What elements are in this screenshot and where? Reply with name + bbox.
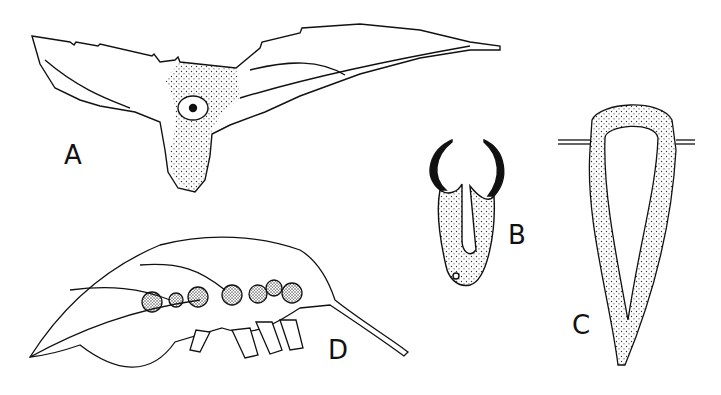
panel-b-drawing bbox=[430, 140, 504, 285]
panel-label-a: A bbox=[64, 142, 82, 168]
panel-d-drawing bbox=[30, 237, 408, 367]
panel-label-b: B bbox=[508, 222, 526, 248]
panel-label-d: D bbox=[328, 337, 348, 363]
panel-label-c: C bbox=[572, 312, 590, 338]
botanical-figure: A B C D bbox=[0, 0, 721, 395]
figure-drawing bbox=[0, 0, 721, 395]
